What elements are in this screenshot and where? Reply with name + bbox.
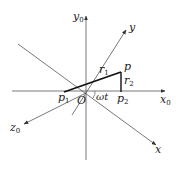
y-label: y (128, 21, 136, 34)
x-axis (18, 44, 156, 145)
angle-arc (93, 91, 95, 98)
y0-label: y0 (72, 10, 84, 24)
r1-label: r1 (99, 63, 109, 77)
coordinate-diagram: y0 y x0 x z0 O p p1 p2 r1 r2 ωt (0, 0, 176, 173)
r2-label: r2 (124, 74, 134, 88)
z0-label: z0 (9, 121, 20, 135)
p2-label: p2 (117, 92, 129, 106)
origin-label: O (77, 94, 86, 107)
x-label: x (155, 143, 162, 156)
x0-label: x0 (160, 93, 171, 107)
p-label: p (124, 60, 131, 73)
p1-label: p1 (58, 91, 70, 105)
segment-r1 (64, 72, 121, 92)
angle-label: ωt (96, 91, 109, 102)
